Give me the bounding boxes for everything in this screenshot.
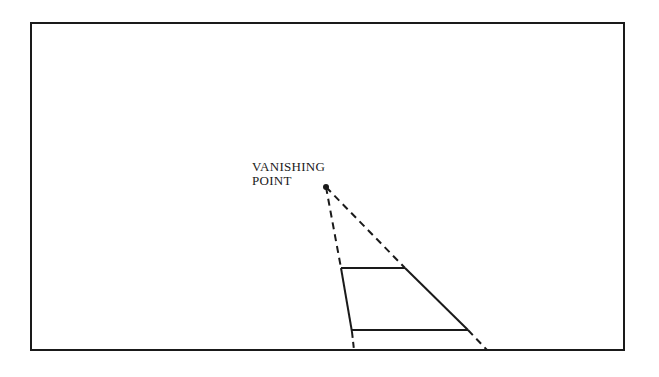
left-line-solid <box>341 268 352 332</box>
left-line-dashed-lower <box>352 332 354 350</box>
right-line-dashed <box>326 187 405 268</box>
right-line-dashed-lower <box>468 330 487 350</box>
right-line-solid <box>405 268 468 330</box>
label-line-1: VANISHING <box>252 160 325 174</box>
perspective-diagram <box>0 0 659 377</box>
label-line-2: POINT <box>252 174 325 188</box>
vanishing-point-label: VANISHING POINT <box>252 160 325 188</box>
